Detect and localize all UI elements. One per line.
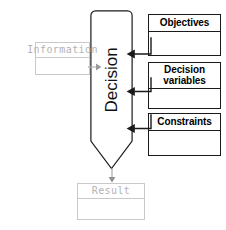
result-label: Result bbox=[92, 186, 131, 197]
objectives-body bbox=[149, 32, 220, 55]
arrow-objectives-to-decision bbox=[126, 36, 152, 60]
constraints-box[interactable]: Constraints bbox=[148, 113, 221, 156]
decision-variables-body bbox=[149, 89, 220, 108]
constraints-body bbox=[149, 131, 220, 155]
arrow-constraints-to-decision bbox=[126, 113, 152, 135]
information-box[interactable]: Information bbox=[35, 42, 90, 75]
decision-variables-box[interactable]: Decision variables bbox=[148, 62, 221, 109]
constraints-header: Constraints bbox=[149, 114, 220, 131]
information-header: Information bbox=[36, 43, 89, 58]
result-body bbox=[78, 199, 144, 219]
arrow-decision-to-result bbox=[105, 168, 119, 184]
decision-variables-label: Decision variables bbox=[151, 65, 218, 86]
diagram-canvas: Decision Information Objectives Decision… bbox=[0, 0, 226, 230]
objectives-header: Objectives bbox=[149, 15, 220, 32]
arrow-decision-variables-to-decision bbox=[126, 76, 152, 98]
result-header: Result bbox=[78, 184, 144, 199]
information-body bbox=[36, 58, 89, 74]
decision-variables-header: Decision variables bbox=[149, 63, 220, 89]
information-label: Information bbox=[27, 45, 98, 56]
result-box[interactable]: Result bbox=[77, 183, 145, 220]
constraints-label: Constraints bbox=[157, 117, 211, 128]
objectives-box[interactable]: Objectives bbox=[148, 14, 221, 56]
objectives-label: Objectives bbox=[160, 18, 210, 29]
arrow-information-to-decision bbox=[88, 60, 102, 74]
